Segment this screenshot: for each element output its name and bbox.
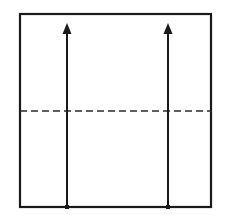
figure-container [0,0,226,224]
right-arrow-tail-dot-icon [166,205,170,209]
diagram-canvas [0,0,226,224]
left-arrow-tail-dot-icon [65,205,69,209]
canvas-background [0,0,226,224]
